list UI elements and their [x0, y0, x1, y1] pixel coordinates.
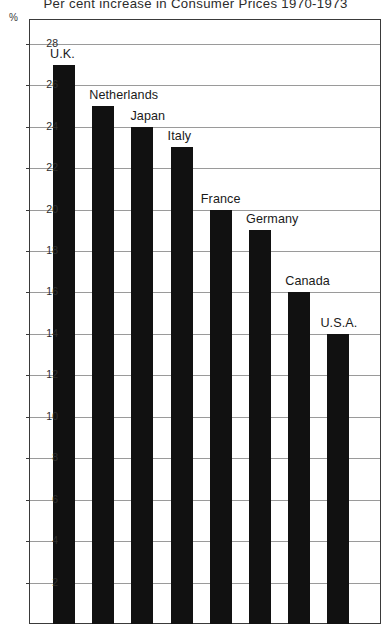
y-axis-tick-mark: [26, 168, 30, 169]
y-axis-unit-label: %: [9, 12, 18, 23]
y-axis-tick-mark: [26, 292, 30, 293]
y-axis-tick-mark: [26, 541, 30, 542]
y-axis-tick-label: 16: [32, 285, 58, 297]
y-axis-tick-label: 10: [32, 410, 58, 422]
bar-category-label: France: [201, 192, 241, 206]
y-axis-tick-mark: [26, 500, 30, 501]
bar-category-label: Canada: [285, 274, 330, 288]
y-axis-tick-mark: [26, 375, 30, 376]
bar-chart-figure: Per cent increase in Consumer Prices 197…: [0, 0, 391, 634]
bar: [171, 147, 193, 624]
gridline: [30, 85, 380, 86]
gridline: [30, 127, 380, 128]
y-axis-tick-mark: [26, 583, 30, 584]
y-axis-tick-mark: [26, 85, 30, 86]
y-axis-tick-label: 8: [32, 451, 58, 463]
gridline: [30, 210, 380, 211]
y-axis-tick-mark: [26, 127, 30, 128]
y-axis-tick-label: 24: [32, 120, 58, 132]
bar: [327, 334, 349, 624]
y-axis-tick-mark: [26, 210, 30, 211]
bar: [92, 106, 114, 624]
y-axis-tick-label: 18: [32, 244, 58, 256]
y-axis-tick-label: 26: [32, 78, 58, 90]
y-axis-tick-label: 6: [32, 493, 58, 505]
y-axis-tick-mark: [26, 334, 30, 335]
y-axis-tick-label: 20: [32, 203, 58, 215]
bar: [131, 127, 153, 624]
y-axis-tick-label: 4: [32, 534, 58, 546]
gridline: [30, 168, 380, 169]
gridline: [30, 292, 380, 293]
y-axis-tick-mark: [26, 251, 30, 252]
y-axis-tick-label: 22: [32, 161, 58, 173]
y-axis-tick-mark: [26, 44, 30, 45]
bar-category-label: Netherlands: [89, 88, 158, 102]
gridline: [30, 251, 380, 252]
bar-category-label: Japan: [130, 109, 165, 123]
y-axis-tick-label: 14: [32, 327, 58, 339]
bar-category-label: Germany: [246, 212, 299, 226]
y-axis-tick-label: 12: [32, 368, 58, 380]
bar-category-label: Italy: [168, 129, 192, 143]
bar: [249, 230, 271, 624]
bar-category-label: U.K.: [50, 47, 75, 61]
bar: [210, 210, 232, 624]
bar: [288, 292, 310, 624]
gridline: [30, 44, 380, 45]
y-axis-tick-label: 2: [32, 576, 58, 588]
y-axis-tick-mark: [26, 458, 30, 459]
chart-title: Per cent increase in Consumer Prices 197…: [0, 0, 391, 11]
y-axis-tick-mark: [26, 417, 30, 418]
bar-category-label: U.S.A.: [320, 316, 357, 330]
